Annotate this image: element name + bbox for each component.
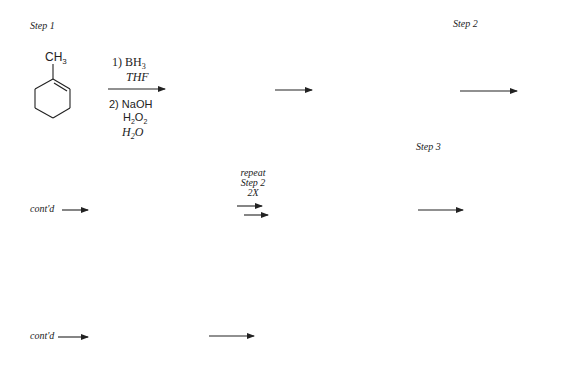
reagent-h2o2: H2O2 — [123, 111, 147, 125]
reagent-naoh: 2) NaOH — [109, 98, 152, 110]
repeat-line3: 2X — [228, 188, 278, 198]
repeat-annotation: repeat Step 2 2X — [228, 168, 278, 198]
scheme-drawing — [0, 0, 573, 366]
contd-label-row2: cont'd — [30, 203, 54, 214]
h2o-o: O — [135, 125, 144, 139]
reagent-h2o: H2O — [122, 125, 143, 141]
methyl-label: CH3 — [45, 50, 67, 66]
reagent-thf: THF — [126, 70, 149, 85]
h2o-h: H — [122, 125, 131, 139]
h2o2-sub2: 2 — [143, 118, 147, 125]
reagent-bh3: 1) BH3 — [112, 55, 146, 71]
contd-label-row3: cont'd — [30, 330, 54, 341]
reaction-scheme — [0, 0, 573, 366]
h2o2-h: H — [123, 111, 131, 123]
methyl-ch: CH — [45, 50, 62, 64]
reagent-bh3-text: 1) BH — [112, 55, 142, 69]
cyclohexene-ring-icon — [35, 64, 70, 118]
methyl-sub: 3 — [62, 57, 66, 66]
